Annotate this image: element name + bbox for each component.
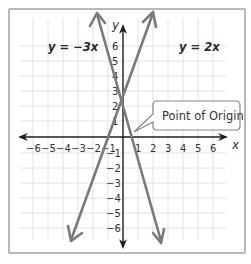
svg-text:−5: −5 xyxy=(41,143,56,154)
callout-text: Point of Origin xyxy=(162,109,244,123)
svg-text:5: 5 xyxy=(195,143,201,154)
svg-text:−3: −3 xyxy=(106,178,121,189)
svg-text:3: 3 xyxy=(165,143,171,154)
coordinate-graph: y x −6 −5 −4 −3 −2 −1 1 2 3 4 5 6 6 5 4 … xyxy=(0,0,251,264)
svg-text:4: 4 xyxy=(180,143,186,154)
svg-text:−2: −2 xyxy=(106,163,121,174)
label-y-2x: y = 2x xyxy=(179,40,220,54)
svg-text:−5: −5 xyxy=(106,208,121,219)
svg-text:−3: −3 xyxy=(71,143,86,154)
x-axis-label: x xyxy=(231,138,240,152)
y-axis-label: y xyxy=(111,18,120,32)
svg-text:6: 6 xyxy=(210,143,216,154)
svg-text:−6: −6 xyxy=(106,223,121,234)
svg-text:−6: −6 xyxy=(26,143,41,154)
svg-text:2: 2 xyxy=(150,143,156,154)
svg-text:6: 6 xyxy=(112,41,118,52)
svg-text:−4: −4 xyxy=(106,193,121,204)
svg-text:5: 5 xyxy=(112,56,118,67)
svg-text:−2: −2 xyxy=(86,143,101,154)
svg-text:−1: −1 xyxy=(106,148,121,159)
svg-text:−4: −4 xyxy=(56,143,71,154)
label-y-neg3x: y = −3x xyxy=(48,40,99,54)
